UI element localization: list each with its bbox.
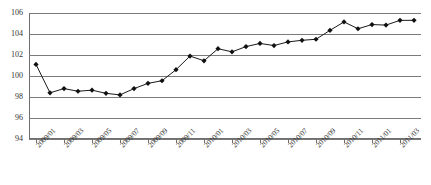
data-point-marker — [397, 18, 402, 23]
x-axis-labels: 2009/012009/032009/052009/072009/092009/… — [0, 143, 431, 185]
data-point-marker — [33, 62, 38, 67]
series-polyline — [36, 20, 414, 95]
y-tick-label-106: 106 — [11, 9, 23, 17]
data-point-marker — [131, 86, 136, 91]
y-axis-labels: 949698100102104106 — [0, 13, 26, 139]
data-point-marker — [313, 37, 318, 42]
data-point-marker — [47, 90, 52, 95]
data-point-marker — [75, 89, 80, 94]
data-point-marker — [117, 92, 122, 97]
line-chart: 949698100102104106 2009/012009/032009/05… — [0, 0, 431, 185]
data-point-marker — [61, 86, 66, 91]
y-tick-label-98: 98 — [15, 93, 23, 101]
y-tick-label-104: 104 — [11, 30, 23, 38]
data-point-marker — [383, 22, 388, 27]
data-point-marker — [89, 88, 94, 93]
data-point-marker — [411, 18, 416, 23]
data-point-marker — [355, 26, 360, 31]
y-tick-label-96: 96 — [15, 114, 23, 122]
y-tick-label-94: 94 — [15, 135, 23, 143]
data-point-marker — [327, 28, 332, 33]
y-tick-label-102: 102 — [11, 51, 23, 59]
data-point-marker — [229, 49, 234, 54]
data-point-marker — [369, 22, 374, 27]
data-point-marker — [257, 41, 262, 46]
data-point-marker — [341, 19, 346, 24]
data-point-marker — [299, 38, 304, 43]
data-point-marker — [103, 91, 108, 96]
data-point-marker — [145, 81, 150, 86]
y-tick-label-100: 100 — [11, 72, 23, 80]
data-point-marker — [271, 43, 276, 48]
data-point-marker — [243, 44, 248, 49]
data-point-marker — [285, 39, 290, 44]
data-series-line — [29, 13, 421, 139]
plot-area — [29, 13, 421, 139]
